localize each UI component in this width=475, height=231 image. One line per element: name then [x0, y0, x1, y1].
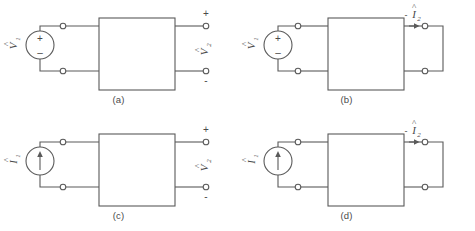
source-minus-sign-b: – — [275, 47, 281, 58]
terminal-output-bottom-c — [203, 184, 209, 190]
output-label-sub-b: 2 — [417, 15, 421, 23]
terminal-output-top-c — [203, 139, 209, 145]
terminal-output-top-a — [203, 23, 209, 29]
two-port-box-d — [328, 134, 404, 206]
terminal-input-bottom-c — [60, 184, 66, 190]
two-port-box-b — [328, 18, 404, 90]
terminal-input-bottom-d — [295, 184, 301, 190]
terminal-input-bottom-b — [295, 68, 301, 74]
output-label-c: ^ V 2 — [193, 159, 213, 172]
output-plus-sign-a: + — [203, 8, 209, 19]
panel-caption-a: (a) — [0, 94, 237, 105]
source-label-b: ^ V 1 — [240, 37, 260, 49]
panel-d: ^ I 1 - ^ I 2 (d) — [238, 116, 475, 231]
source-label-sub-d: 1 — [252, 154, 260, 158]
terminal-input-top-b — [295, 23, 301, 29]
source-label-sub-a: 1 — [14, 37, 22, 41]
terminal-output-top-b — [422, 23, 428, 29]
two-port-network-figure: + – ^ V 1 + - ^ V 2 (a) — [0, 0, 475, 231]
panel-a: + – ^ V 1 + - ^ V 2 (a) — [0, 0, 237, 115]
terminal-output-bottom-a — [203, 68, 209, 74]
output-minus-sign-c: - — [204, 191, 207, 202]
panel-c: ^ I 1 + - ^ V 2 (c) — [0, 116, 237, 231]
terminal-input-top-d — [295, 139, 301, 145]
output-label-a: ^ V 2 — [193, 43, 213, 56]
output-plus-sign-c: + — [203, 124, 209, 135]
output-label-sub-d: 2 — [417, 131, 421, 139]
output-label-b: - ^ I 2 — [405, 2, 422, 23]
source-label-c: ^ I 1 — [2, 154, 22, 165]
output-label-main-d: I — [411, 124, 417, 136]
output-label-prefix-d: - — [405, 126, 408, 136]
terminal-output-bottom-d — [422, 184, 428, 190]
source-label-sub-b: 1 — [252, 37, 260, 41]
panel-caption-c: (c) — [0, 210, 237, 221]
output-minus-sign-a: - — [204, 75, 207, 86]
current-arrow-head-d — [414, 139, 420, 145]
panel-caption-b: (b) — [228, 94, 465, 105]
terminal-input-top-c — [60, 139, 66, 145]
two-port-box-c — [99, 134, 175, 206]
output-label-d: - ^ I 2 — [405, 118, 422, 139]
current-arrow-head-b — [414, 23, 420, 29]
terminal-input-bottom-a — [60, 68, 66, 74]
source-plus-sign-a: + — [37, 33, 43, 44]
terminal-input-top-a — [60, 23, 66, 29]
current-source-arrow-head-c — [37, 151, 43, 157]
panel-b: + – ^ V 1 - ^ I 2 (b) — [238, 0, 475, 115]
terminal-output-top-d — [422, 139, 428, 145]
source-label-a: ^ V 1 — [2, 37, 22, 49]
source-plus-sign-b: + — [275, 33, 281, 44]
source-minus-sign-a: – — [37, 47, 43, 58]
two-port-box-a — [99, 18, 175, 90]
output-label-sub-a: 2 — [205, 43, 213, 47]
output-label-main-b: I — [411, 8, 417, 20]
output-label-prefix-b: - — [405, 10, 408, 20]
source-label-d: ^ I 1 — [240, 154, 260, 165]
terminal-output-bottom-b — [422, 68, 428, 74]
output-label-sub-c: 2 — [205, 159, 213, 163]
panel-caption-d: (d) — [228, 210, 465, 221]
current-source-arrow-head-d — [275, 151, 281, 157]
source-label-sub-c: 1 — [14, 154, 22, 158]
